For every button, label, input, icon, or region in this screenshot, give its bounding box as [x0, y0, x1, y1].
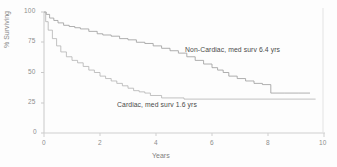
ytick-label-0: 0	[33, 128, 37, 135]
ytick-label-25: 25	[28, 98, 36, 105]
ytick-label-100: 100	[24, 7, 35, 14]
axis-lines	[44, 8, 325, 133]
y-axis-title-text: % Surviving	[3, 0, 10, 61]
annotation-cardiac: Cardiac, med surv 1.6 yrs	[117, 101, 197, 108]
annotation-non-cardiac: Non-Cardiac, med surv 6.4 yrs	[185, 46, 280, 53]
xtick-label-6: 6	[210, 139, 214, 146]
xtick-label-10: 10	[319, 139, 327, 146]
survival-chart-figure: 100 75 50 25 0 0 2 4 6 8 10 % Surviving …	[0, 0, 337, 167]
x-axis-ticks	[44, 133, 324, 137]
survival-curve-cardiac	[44, 12, 316, 99]
xtick-label-2: 2	[98, 139, 102, 146]
xtick-label-8: 8	[266, 139, 270, 146]
xtick-label-4: 4	[154, 139, 158, 146]
plot-canvas	[0, 0, 337, 167]
ytick-label-50: 50	[28, 68, 36, 75]
xtick-label-0: 0	[42, 139, 46, 146]
ytick-label-75: 75	[28, 37, 36, 44]
x-axis-title: Years	[152, 152, 170, 159]
